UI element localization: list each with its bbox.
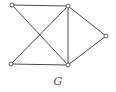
graph-edge-b-c [68,6,106,36]
graph-nodes [9,3,108,67]
graph-node-b [66,4,70,8]
graph-label: G [50,75,66,88]
graph-node-c [104,34,108,38]
graph-edge-e-c [68,36,106,65]
graph-node-e [66,63,70,67]
graph-node-a [10,3,14,7]
graph-edges [11,5,106,65]
graph-edge-a-b [12,5,68,6]
graph-edge-d-e [11,64,68,65]
graph-node-d [9,62,13,66]
